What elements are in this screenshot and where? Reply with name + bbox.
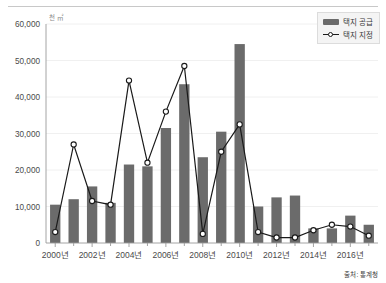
line-series [55,66,369,238]
x-axis-tick-label: 2006년 [152,250,179,260]
legend-label-designation: 택지 지정 [343,29,373,40]
data-point-marker [237,122,242,127]
data-point-marker [126,78,131,83]
bar-swatch-icon [323,19,339,25]
data-point-marker [329,222,334,227]
data-point-marker [219,149,224,154]
y-axis-tick-label: 40,000 [15,93,40,102]
bar [216,132,226,243]
bar [142,166,152,243]
data-point-marker [274,235,279,240]
x-axis-tick-label: 2000년 [42,250,69,260]
y-axis-tick-label: 20,000 [15,166,40,175]
y-axis-tick-label: 50,000 [15,57,40,66]
y-axis-tick-label: 30,000 [15,130,40,139]
chart-legend: 택지 공급 택지 지정 [317,12,380,44]
data-point-marker [292,235,297,240]
data-point-marker [348,224,353,229]
bar [124,165,134,243]
y-axis-unit-label: 천 ㎡ [49,13,64,21]
data-point-marker [145,160,150,165]
bar [161,128,171,243]
source-note: 출처: 통계청 [344,269,378,279]
data-point-marker [71,142,76,147]
x-axis-tick-label: 2010년 [226,250,253,260]
x-axis-tick-label: 2002년 [79,250,106,260]
bar [50,205,60,243]
bar [105,203,115,243]
legend-item-supply[interactable]: 택지 공급 [323,16,373,27]
data-point-marker [90,198,95,203]
x-axis-tick-label: 2012년 [263,250,290,260]
data-point-marker [311,228,316,233]
data-point-marker [163,109,168,114]
x-axis-tick-label: 2016년 [337,250,364,260]
data-point-marker [53,229,58,234]
y-axis-tick-label: 10,000 [15,203,40,212]
x-axis-tick-label: 2004년 [116,250,143,260]
x-axis-tick-label: 2014년 [300,250,327,260]
x-axis-tick-label: 2008년 [189,250,216,260]
line-marker-swatch-icon [323,31,339,38]
y-axis-tick-label: 0 [35,239,40,248]
data-point-marker [256,229,261,234]
data-point-marker [200,231,205,236]
bar [179,84,189,243]
bar [69,199,79,243]
legend-item-designation[interactable]: 택지 지정 [323,29,373,40]
data-point-marker [108,202,113,207]
data-point-marker [366,233,371,238]
y-axis-tick-label: 60,000 [15,20,40,29]
bar [87,186,97,243]
data-point-marker [182,63,187,68]
bar [327,228,337,243]
legend-label-supply: 택지 공급 [343,16,373,27]
